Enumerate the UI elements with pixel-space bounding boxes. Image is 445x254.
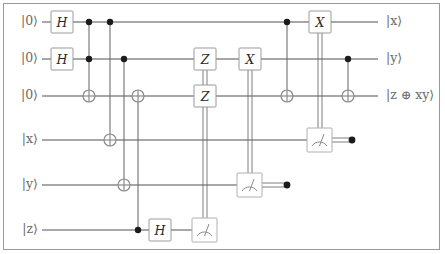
gate-hadamard-a1[interactable]: H — [51, 48, 73, 70]
target-cnot-a0-a2 — [281, 90, 293, 102]
gate-label: X — [315, 15, 326, 30]
input-label-a2: |0⟩ — [8, 89, 38, 102]
gate-label: H — [56, 15, 69, 30]
gate-box-group: H H H Z Z X X — [51, 11, 331, 241]
gate-label: Z — [200, 89, 210, 104]
gate-pauliz-a1[interactable]: Z — [194, 48, 216, 70]
control-dot-a0-a2 — [284, 19, 290, 25]
control-link-group — [89, 22, 348, 230]
control-dot-a1-y — [121, 56, 127, 62]
gate-label: H — [56, 52, 69, 67]
control-dot-a0-x — [107, 19, 113, 25]
circuit-canvas: H H H Z Z X X — [0, 0, 445, 254]
gate-hadamard-z[interactable]: H — [149, 219, 171, 241]
output-label-x: |x⟩ — [386, 15, 402, 28]
gate-label: X — [245, 52, 256, 67]
measure-icon-x[interactable] — [307, 128, 332, 152]
gate-hadamard-a0[interactable]: H — [51, 11, 73, 33]
control-dot-group — [86, 19, 356, 233]
classical-dot-y — [284, 182, 291, 189]
target-cnot-y — [118, 179, 130, 191]
gate-label: H — [154, 223, 167, 238]
input-label-a0: |0⟩ — [8, 15, 38, 28]
classical-dot-x — [349, 137, 356, 144]
target-cnot-a1-a2 — [342, 90, 354, 102]
quantum-circuit-figure: H H H Z Z X X — [0, 0, 445, 254]
target-cnot-z-a2 — [132, 90, 144, 102]
input-label-x: |x⟩ — [8, 133, 38, 146]
target-cnot-x — [104, 134, 116, 146]
measure-icon-z[interactable] — [192, 218, 217, 242]
input-label-a1: |0⟩ — [8, 52, 38, 65]
gate-paulix-a1[interactable]: X — [239, 48, 261, 70]
gate-paulix-a0[interactable]: X — [309, 11, 331, 33]
control-dot-a1-toffoli — [86, 56, 92, 62]
control-dot-a0-toffoli — [86, 19, 92, 25]
target-toffoli-a2 — [83, 90, 95, 102]
output-label-zxy: |z ⊕ xy⟩ — [386, 89, 434, 102]
gate-pauliz-a2[interactable]: Z — [194, 85, 216, 107]
input-label-y: |y⟩ — [8, 178, 38, 191]
input-label-z: |z⟩ — [8, 223, 38, 236]
output-label-y: |y⟩ — [386, 52, 402, 65]
control-dot-z-a2 — [135, 227, 141, 233]
control-dot-a1-a2 — [345, 56, 351, 62]
classical-link-group — [203, 32, 352, 221]
gate-label: Z — [200, 52, 210, 67]
measure-icon-y[interactable] — [237, 173, 262, 197]
